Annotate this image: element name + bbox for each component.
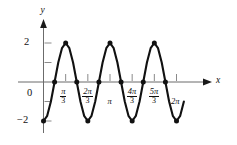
x-tick-label-5: 5π3 <box>149 87 160 106</box>
point-marker-zero-crossing <box>74 80 79 85</box>
point-marker-minimum <box>85 119 90 124</box>
plot-canvas <box>0 0 237 145</box>
x-tick-label-3: π <box>108 91 112 107</box>
y-axis-arrowhead <box>40 19 47 28</box>
point-marker-zero-crossing <box>119 80 124 85</box>
y-tick-label-neg2: −2 <box>17 115 28 126</box>
point-marker-minimum <box>130 119 135 124</box>
origin-label: 0 <box>27 88 32 99</box>
trig-graph-figure: yx2−20π32π3π4π35π32π <box>0 0 237 145</box>
point-marker-maximum <box>152 41 157 46</box>
point-marker-zero-crossing <box>96 80 101 85</box>
x-tick-label-4: 4π3 <box>127 87 138 106</box>
point-marker-zero-crossing <box>141 80 146 85</box>
point-marker-minimum <box>174 119 179 124</box>
x-tick-label-2: 2π3 <box>82 87 93 106</box>
x-axis-label: x <box>216 76 220 86</box>
x-axis-arrowhead <box>203 79 212 86</box>
point-marker-maximum <box>63 41 68 46</box>
point-marker-minimum <box>41 119 46 124</box>
x-tick-label-1: π3 <box>60 87 66 106</box>
point-marker-maximum <box>108 41 113 46</box>
y-axis-label: y <box>41 6 45 16</box>
point-marker-zero-crossing <box>163 80 168 85</box>
point-marker-zero-crossing <box>52 80 57 85</box>
y-tick-label-2: 2 <box>24 37 29 48</box>
x-tick-label-6: 2π <box>171 91 180 107</box>
